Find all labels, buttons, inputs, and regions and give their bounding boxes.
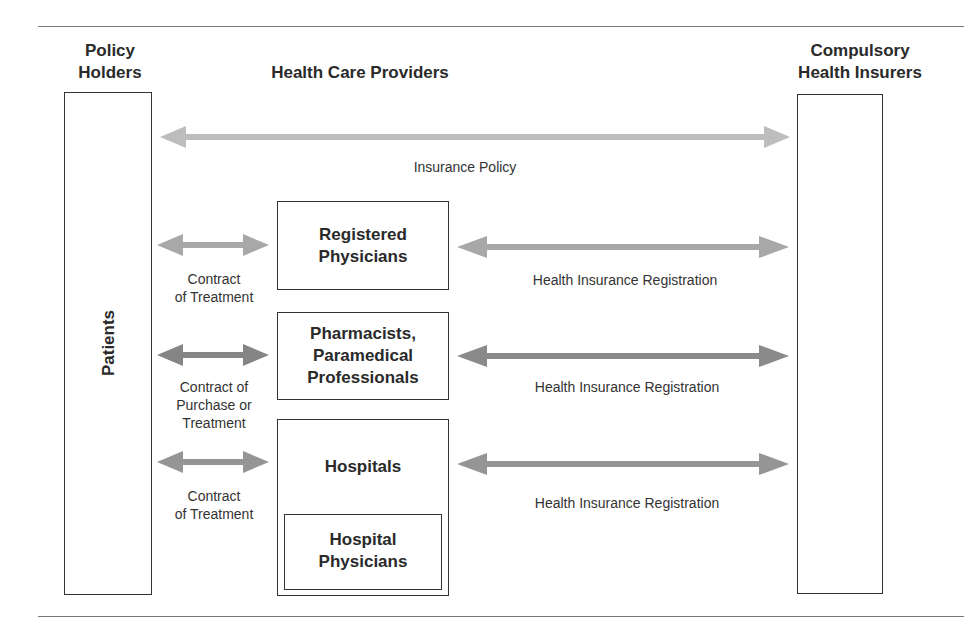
- registration-arrow-1: [457, 235, 789, 259]
- registration-label-1: Health Insurance Registration: [480, 271, 770, 289]
- registration-label-3: Health Insurance Registration: [482, 494, 772, 512]
- registration-label-2: Health Insurance Registration: [482, 378, 772, 396]
- registration-arrow-3: [457, 452, 789, 476]
- patients-label: Patients: [99, 303, 119, 383]
- insurance-policy-label: Insurance Policy: [360, 158, 570, 176]
- treatment-contract-label-1: Contract of Treatment: [152, 270, 276, 306]
- bottom-divider: [38, 616, 964, 617]
- insurers-box: [797, 94, 883, 594]
- purchase-contract-label: Contract of Purchase or Treatment: [152, 378, 276, 432]
- pharmacists-box: Pharmacists, Paramedical Professionals: [277, 312, 449, 400]
- treatment-contract-label-2: Contract of Treatment: [152, 487, 276, 523]
- treatment-contract-arrow-1: [157, 233, 269, 257]
- treatment-contract-arrow-2: [157, 450, 269, 474]
- insurance-policy-arrow: [160, 124, 790, 150]
- policy-holders-header: Policy Holders: [60, 40, 160, 84]
- registration-arrow-2: [457, 344, 789, 368]
- top-divider: [38, 26, 964, 27]
- registered-physicians-box: Registered Physicians: [277, 201, 449, 290]
- hospitals-box: Hospitals Hospital Physicians: [277, 419, 449, 596]
- hospital-physicians-box: Hospital Physicians: [284, 514, 442, 590]
- providers-header: Health Care Providers: [240, 62, 480, 84]
- purchase-contract-arrow: [157, 343, 269, 367]
- insurers-header: Compulsory Health Insurers: [760, 40, 960, 84]
- patients-box: Patients: [64, 92, 152, 595]
